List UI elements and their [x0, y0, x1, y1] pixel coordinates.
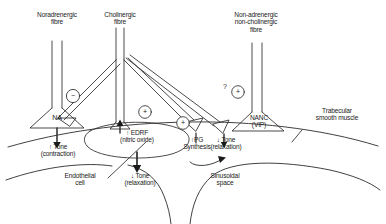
arrow-edrf-to-relaxation	[133, 152, 141, 173]
excitatory-signal-plus-edrf-icon: +	[139, 108, 151, 115]
nanc-terminal-label: NANC (VIP)	[238, 114, 280, 129]
endothelial-cell-label: Endothelial cell	[51, 172, 109, 187]
sinusoidal-space-label: Sinusoidal space	[196, 172, 254, 187]
edrf-label: ↑ EDRF (nitric oxide)	[105, 129, 169, 144]
uncertain-pathway-question-icon: ?	[220, 83, 230, 90]
na-tone-effect-label: ↑ Tone (contraction)	[26, 143, 90, 158]
endothelial-tone-effect-label: ↓ Tone (relaxation)	[110, 172, 170, 187]
cholinergic-branch-to-pg	[124, 58, 203, 131]
inhibitory-signal-minus-icon: −	[67, 92, 79, 99]
na-terminal-label: NA	[41, 115, 73, 123]
cholinergic-fibre-label: Cholinergic fibre	[85, 11, 155, 26]
cholinergic-fibre-shaft	[116, 28, 124, 122]
arrow-pg-synthesis-to-relaxation	[190, 156, 226, 166]
nanc-fibre-shaft	[252, 43, 262, 112]
nanc-fibre-label: Non-adrenergic non-cholinergic fibre	[200, 11, 312, 33]
excitatory-signal-plus-nanc-icon: +	[232, 88, 244, 95]
nanc-tone-effect-label: ↓ Tone (relaxation)	[196, 136, 256, 151]
diagram-canvas: Noradrenergic fibre Cholinergic fibre No…	[0, 0, 386, 224]
trabecular-pointer	[292, 130, 302, 142]
trabecular-smooth-muscle-label: Trabecular smooth muscle	[294, 107, 380, 122]
noradrenergic-fibre-shaft	[52, 41, 62, 108]
excitatory-signal-plus-pg-icon: +	[177, 119, 189, 126]
